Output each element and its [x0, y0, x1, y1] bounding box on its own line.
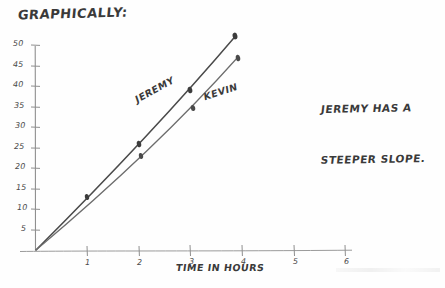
x-axis — [20, 250, 352, 251]
y-tick-label-30: 30 — [14, 121, 26, 130]
worksheet-page: GRAPHICALLY: JEREMY HAS A STEEPER SLOPE. — [0, 0, 445, 288]
y-tick-label-10: 10 — [16, 203, 28, 212]
jeremy-line — [36, 36, 236, 251]
y-tick-label-50: 50 — [12, 39, 24, 48]
jeremy-markers — [84, 32, 238, 200]
series-line-kevin — [36, 54, 241, 250]
paper-smudge — [336, 268, 440, 272]
y-tick-label-15: 15 — [15, 183, 27, 192]
y-tick-label-40: 40 — [12, 80, 24, 89]
y-tick-label-45: 45 — [12, 60, 24, 69]
y-tick-label-20: 20 — [14, 162, 26, 171]
kevin-line — [36, 57, 238, 250]
x-axis-label: TIME IN HOURS — [175, 262, 265, 273]
y-tick-label-35: 35 — [13, 101, 25, 110]
series-line-jeremy — [36, 32, 238, 250]
chart-canvas — [0, 0, 445, 288]
y-tick-label-25: 25 — [13, 142, 25, 151]
